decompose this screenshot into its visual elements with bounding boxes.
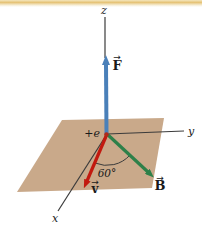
charge-label: +e xyxy=(84,127,100,140)
charge-dot xyxy=(104,132,109,137)
physics-vector-figure: z y x → F → v → B +e 60° xyxy=(0,0,202,226)
x-axis-label: x xyxy=(52,212,59,225)
force-label: F xyxy=(112,58,122,73)
force-vector xyxy=(106,64,107,134)
figure-canvas: z y x → F → v → B +e 60° xyxy=(0,0,202,226)
angle-label: 60° xyxy=(98,167,117,179)
z-axis-label: z xyxy=(100,4,107,17)
field-label: B xyxy=(155,178,166,193)
velocity-label: v xyxy=(91,182,100,196)
y-axis-label: y xyxy=(187,125,195,138)
